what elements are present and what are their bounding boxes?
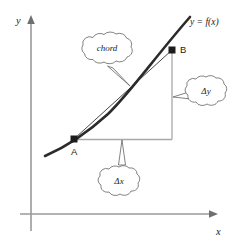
x-axis-arrowhead bbox=[209, 210, 218, 218]
callout-delta-x: Δx bbox=[98, 140, 140, 196]
callout-delta-y-label: Δy bbox=[200, 86, 210, 96]
callout-chord: chord bbox=[82, 32, 132, 86]
callout-chord-label: chord bbox=[97, 43, 118, 53]
point-a-label: A bbox=[71, 146, 78, 157]
point-a-marker bbox=[71, 136, 78, 143]
callout-delta-x-label: Δx bbox=[113, 176, 123, 186]
point-b-label: B bbox=[180, 44, 186, 55]
point-b-marker bbox=[169, 47, 176, 54]
y-axis-arrowhead bbox=[27, 15, 35, 24]
callout-delta-y: Δy bbox=[173, 76, 227, 106]
x-axis-label: x bbox=[215, 226, 221, 237]
chord-line bbox=[74, 50, 172, 139]
callout-chord-tail bbox=[108, 66, 131, 86]
y-axis-label: y bbox=[15, 15, 21, 26]
figure-canvas: y x A B y = f(x) chord bbox=[0, 0, 241, 243]
curve-label: y = f(x) bbox=[189, 17, 219, 28]
callout-delta-x-tail bbox=[119, 140, 126, 165]
